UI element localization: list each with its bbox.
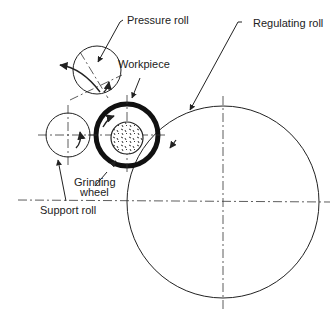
pressure-roll-leader	[98, 20, 123, 62]
leader-lines	[58, 20, 242, 201]
workpiece-label: Workpiece	[118, 58, 170, 70]
workpiece-rotation-arrow-icon	[103, 116, 114, 127]
support-roll-leader	[58, 160, 66, 201]
pressure-roll-label: Pressure roll	[127, 14, 189, 26]
regulating-roll-rotation-arrow-icon	[170, 140, 176, 148]
grinding-wheel-label-line2: wheel	[79, 186, 109, 198]
regulating-roll-leader	[190, 22, 242, 110]
workpiece-leader	[132, 78, 140, 98]
diagram-canvas: Pressure roll Workpiece Regulating roll …	[0, 0, 336, 322]
pressure-roll	[60, 46, 122, 100]
horizontal-centerline	[18, 200, 330, 202]
support-roll-label: Support roll	[40, 204, 96, 216]
regulating-roll-label: Regulating roll	[253, 17, 323, 29]
pressure-roll-swing-arrow-icon	[60, 65, 100, 92]
support-roll-rotation-arrow-icon	[76, 132, 81, 148]
